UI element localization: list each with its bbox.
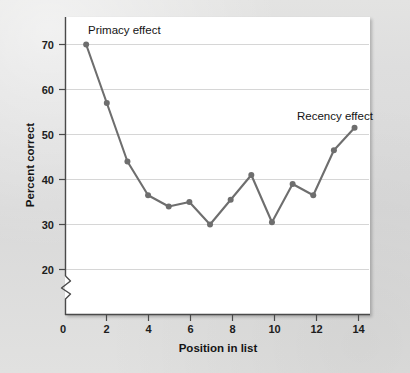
data-point-14 [352, 125, 358, 131]
x-axis [65, 315, 370, 322]
y-tick-labels: 70 60 50 40 30 20 [42, 39, 54, 276]
x-tick-label-0: 0 [60, 323, 66, 335]
x-tick-label-10: 10 [268, 323, 280, 335]
y-tick-label-50: 50 [42, 129, 54, 141]
x-tick-label-2: 2 [103, 323, 109, 335]
data-point-3 [124, 159, 130, 165]
data-point-8 [228, 197, 234, 203]
serial-position-chart-figure: 70 60 50 40 30 20 0 2 4 6 8 10 12 14 Per… [0, 0, 410, 373]
x-axis-title: Position in list [179, 342, 258, 354]
y-tick-label-40: 40 [42, 174, 54, 186]
y-axis [59, 17, 71, 315]
data-point-1 [83, 42, 89, 48]
data-point-7 [207, 222, 213, 228]
data-point-10 [269, 219, 275, 225]
data-point-11 [290, 181, 296, 187]
data-point-9 [248, 172, 254, 178]
y-tick-label-20: 20 [42, 264, 54, 276]
y-tick-label-70: 70 [42, 39, 54, 51]
y-tick-label-60: 60 [42, 84, 54, 96]
x-tick-label-8: 8 [229, 323, 235, 335]
x-tick-label-4: 4 [145, 323, 152, 335]
annotation-primacy-effect: Primacy effect [88, 24, 161, 36]
data-point-13 [331, 147, 337, 153]
annotation-recency-effect: Recency effect [297, 110, 374, 122]
x-tick-labels: 0 2 4 6 8 10 12 14 [60, 323, 366, 335]
gridlines [66, 45, 369, 270]
chart-svg: 70 60 50 40 30 20 0 2 4 6 8 10 12 14 Per… [0, 0, 410, 373]
x-tick-label-12: 12 [310, 323, 322, 335]
y-tick-label-30: 30 [42, 219, 54, 231]
x-tick-label-14: 14 [352, 323, 365, 335]
data-point-4 [145, 192, 151, 198]
y-axis-title: Percent correct [24, 123, 36, 208]
data-point-12 [310, 192, 316, 198]
data-point-5 [166, 204, 172, 210]
data-point-2 [104, 100, 110, 106]
x-tick-label-6: 6 [187, 323, 193, 335]
data-point-6 [186, 199, 192, 205]
y-axis-break-zigzag [62, 276, 71, 315]
